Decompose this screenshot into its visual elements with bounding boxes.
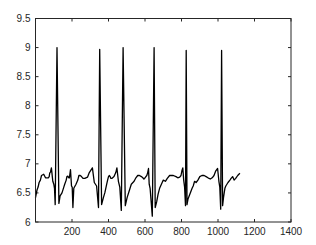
ecg-line-chart: 200400600800100012001400 66.577.588.599.… xyxy=(0,0,316,245)
y-tick-label: 6.5 xyxy=(17,187,31,198)
x-tick-label: 600 xyxy=(137,226,154,237)
x-tick-label: 800 xyxy=(173,226,190,237)
x-axis-labels: 200400600800100012001400 xyxy=(64,226,303,237)
y-tick-label: 9.5 xyxy=(17,13,31,24)
y-tick-label: 8 xyxy=(25,100,31,111)
y-tick-label: 7.5 xyxy=(17,129,31,140)
x-tick-label: 200 xyxy=(64,226,81,237)
x-tick-label: 1200 xyxy=(243,226,266,237)
x-tick-label: 1400 xyxy=(280,226,303,237)
y-axis-labels: 66.577.588.599.5 xyxy=(17,13,31,228)
x-tick-label: 1000 xyxy=(207,226,230,237)
y-tick-label: 8.5 xyxy=(17,71,31,82)
x-tick-label: 400 xyxy=(100,226,117,237)
y-tick-label: 6 xyxy=(25,217,31,228)
y-tick-label: 7 xyxy=(25,158,31,169)
y-tick-label: 9 xyxy=(25,42,31,53)
